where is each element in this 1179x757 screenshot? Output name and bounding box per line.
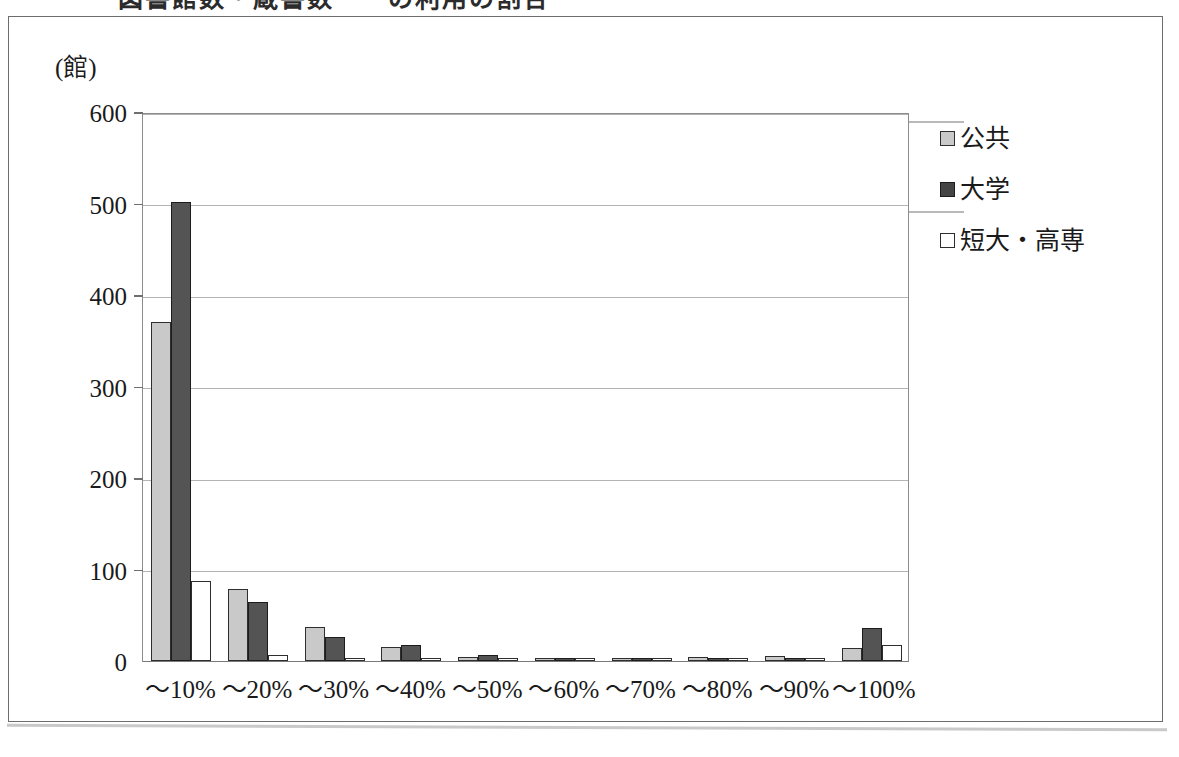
bar-1-series-2 [171,202,191,661]
legend-swatch-icon-2 [940,182,955,197]
y-tick-label-0: 0 [9,650,127,675]
y-tick-mark-600 [134,112,143,113]
y-tick-mark-400 [134,295,143,296]
bar-4-series-2 [401,645,421,661]
bar-3-series-3 [345,658,365,661]
x-tick-label-8: ～80% [679,677,756,702]
legend-swatch-icon-1 [940,131,955,146]
y-tick-mark-100 [134,570,143,571]
bar-9-series-2 [785,658,805,661]
bar-group-1 [143,114,220,661]
bar-group-4 [373,114,450,661]
bar-1-series-1 [151,322,171,661]
bar-6-series-1 [535,658,555,661]
bar-6-series-3 [575,658,595,661]
legend-label-1: 公共 [960,126,1010,151]
bar-2-series-3 [268,655,288,661]
bar-group-7 [603,114,680,661]
bar-8-series-1 [688,657,708,661]
y-tick-label-300: 300 [9,376,127,401]
bar-group-2 [220,114,297,661]
bar-group-10 [833,114,910,661]
legend-item-1[interactable]: 公共 [940,113,1150,164]
bar-7-series-3 [652,658,672,661]
bar-10-series-1 [842,648,862,661]
bar-10-series-2 [862,628,882,661]
x-tick-label-9: ～90% [756,677,833,702]
y-tick-mark-200 [134,478,143,479]
x-tick-label-3: ～30% [295,677,372,702]
x-tick-label-2: ～20% [219,677,296,702]
x-tick-label-4: ～40% [372,677,449,702]
caption-strip: 図書館数・蔵書数一一の利用の割合 [0,0,1179,14]
bar-4-series-1 [381,647,401,661]
bar-9-series-1 [765,656,785,661]
plot-area [142,113,909,662]
bar-group-8 [680,114,757,661]
bar-group-6 [527,114,604,661]
bar-group-9 [757,114,834,661]
bar-1-series-3 [191,581,211,661]
y-tick-label-400: 400 [9,284,127,309]
bar-group-3 [296,114,373,661]
bar-7-series-1 [612,658,632,661]
bar-5-series-1 [458,657,478,661]
legend-label-3: 短大・高専 [960,228,1085,253]
bar-group-5 [450,114,527,661]
x-tick-label-1: ～10% [142,677,219,702]
y-axis-unit-label: (館) [55,55,97,80]
bar-10-series-3 [882,645,902,661]
x-tick-label-5: ～50% [449,677,526,702]
legend-item-2[interactable]: 大学 [940,164,1150,215]
legend-label-2: 大学 [960,177,1010,202]
x-tick-label-10: ～100% [832,677,909,702]
bar-8-series-3 [728,658,748,661]
bar-4-series-3 [421,658,441,661]
y-tick-label-100: 100 [9,559,127,584]
legend-swatch-icon-3 [940,233,955,248]
bar-5-series-2 [478,655,498,661]
chart-caption: 図書館数・蔵書数一一の利用の割合 [118,0,550,14]
x-tick-label-6: ～60% [526,677,603,702]
y-tick-label-500: 500 [9,193,127,218]
bar-3-series-2 [325,637,345,661]
y-tick-label-600: 600 [9,101,127,126]
x-tick-label-7: ～70% [602,677,679,702]
bar-3-series-1 [305,627,325,661]
bar-5-series-3 [498,658,518,661]
bar-2-series-2 [248,602,268,661]
y-tick-mark-300 [134,387,143,388]
legend-item-3[interactable]: 短大・高専 [940,215,1150,266]
bar-2-series-1 [228,589,248,661]
y-tick-mark-500 [134,204,143,205]
bar-7-series-2 [632,658,652,661]
figure-frame: (館) 公共大学短大・高専 0100200300400500600～10%～20… [8,16,1163,722]
bar-6-series-2 [555,658,575,661]
y-tick-label-200: 200 [9,467,127,492]
chart-legend: 公共大学短大・高専 [940,113,1150,266]
bar-9-series-3 [805,658,825,661]
bar-8-series-2 [708,658,728,661]
